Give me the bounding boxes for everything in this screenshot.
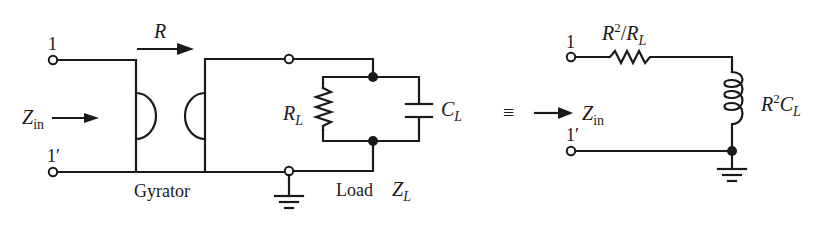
right-terminal-1 [567,53,575,61]
gyration-direction-arrow [138,43,194,55]
inductor-label: R2CL [760,91,801,119]
inductor [725,72,743,151]
gyrator-resistance-label: R [153,20,166,42]
left-circuit: 1 1′ Zin R Gyrator [22,20,462,208]
right-terminal-1-label: 1 [566,32,575,52]
load-resistor-rl [316,88,331,130]
gyrator-label: Gyrator [134,181,190,201]
zin-label: Zin [22,106,44,132]
top-input-wire [57,60,136,172]
zl-label: ZL [392,178,411,204]
load-junction-bottom [368,136,378,146]
cl-label: CL [441,98,462,124]
gyrator-right-port-symbol [185,93,205,139]
right-zin-arrow [535,107,573,119]
terminal-1 [49,56,57,64]
load-bottom-wire [293,141,373,171]
right-circuit: 1 1′ R2/RL R2CL [566,20,801,181]
right-terminal-1prime-label: 1′ [566,125,579,145]
terminal-1-label: 1 [48,34,57,54]
terminal-1prime-label: 1′ [47,146,60,166]
right-terminal-1prime [567,147,575,155]
gyrator-left-port-symbol [136,93,156,139]
series-resistor [575,51,732,72]
gyrator-circuit-diagram: 1 1′ Zin R Gyrator [0,0,834,228]
output-terminal-top [285,55,293,63]
load-top-wire [293,59,373,77]
load-capacitor-cl [406,104,432,117]
zin-arrow [52,113,99,123]
load-junction-top [368,72,378,82]
load-label: Load [336,180,373,200]
terminal-1prime [49,168,57,176]
equivalence-symbol: ≡ [503,101,514,123]
ground-symbol-right [718,151,746,181]
ground-symbol-left [275,175,303,208]
right-zin-label: Zin [582,102,604,128]
series-resistor-label: R2/RL [601,20,647,48]
rl-label: RL [282,102,303,128]
gyrator-output-wire [205,59,285,172]
